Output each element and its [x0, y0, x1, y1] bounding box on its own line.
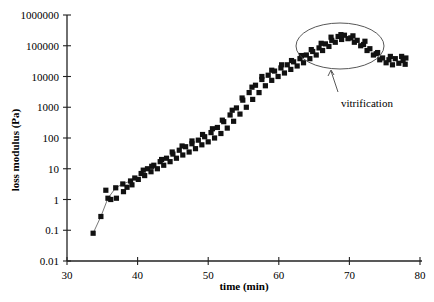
vitrification-label: vitrification	[341, 97, 393, 109]
data-point-marker	[250, 97, 255, 102]
y-tick-label: 0.1	[45, 224, 59, 236]
data-point-marker	[98, 214, 103, 219]
data-point-marker	[121, 189, 126, 194]
data-point-marker	[350, 33, 355, 38]
data-point-marker	[326, 44, 331, 49]
loss-modulus-chart: 0.010.1110100100010000100000100000030405…	[0, 0, 434, 302]
y-tick-label: 1	[54, 194, 60, 206]
data-point-marker	[155, 166, 160, 171]
data-point-marker	[362, 39, 367, 44]
data-point-marker	[170, 149, 175, 154]
x-axis-title: time (min)	[219, 280, 269, 293]
data-point-marker	[266, 73, 271, 78]
y-tick-label: 100000	[26, 40, 60, 52]
data-point-marker	[269, 68, 274, 73]
data-point-marker	[218, 131, 223, 136]
data-point-marker	[206, 139, 211, 144]
x-tick-label: 80	[415, 269, 427, 281]
data-point-marker	[352, 40, 357, 45]
data-point-marker	[249, 85, 254, 90]
data-point-marker	[289, 58, 294, 63]
vitrification-ellipse	[296, 23, 384, 69]
data-point-marker	[179, 143, 184, 148]
data-point-marker	[244, 105, 249, 110]
y-tick-label: 0.01	[40, 255, 59, 267]
data-point-marker	[114, 196, 119, 201]
data-point-marker	[108, 197, 113, 202]
x-tick-label: 50	[203, 269, 215, 281]
data-point-marker	[307, 56, 312, 61]
data-point-marker	[161, 163, 166, 168]
data-point-marker	[225, 125, 230, 130]
data-point-marker	[319, 41, 324, 46]
data-point-marker	[288, 67, 293, 72]
data-point-marker	[239, 95, 244, 100]
x-tick-label: 60	[273, 269, 285, 281]
data-point-marker	[309, 47, 314, 52]
y-tick-label: 1000000	[21, 9, 60, 21]
data-point-marker	[227, 112, 232, 117]
data-point-marker	[390, 62, 395, 67]
data-point-marker	[91, 231, 96, 236]
y-tick-label: 1000	[37, 101, 60, 113]
data-point-marker	[339, 37, 344, 42]
data-point-marker	[212, 135, 217, 140]
data-point-marker	[345, 36, 350, 41]
x-tick-label: 40	[132, 269, 144, 281]
data-point-marker	[338, 32, 343, 37]
annotation-arrow	[331, 71, 338, 92]
data-point-marker	[113, 185, 118, 190]
data-point-marker	[231, 119, 236, 124]
data-point-marker	[275, 74, 280, 79]
data-point-marker	[148, 169, 153, 174]
data-point-marker	[364, 48, 369, 53]
data-point-marker	[358, 43, 363, 48]
data-point-marker	[247, 90, 252, 95]
data-point-marker	[180, 152, 185, 157]
data-point-marker	[375, 50, 380, 55]
y-tick-label: 100	[43, 132, 60, 144]
data-point-marker	[259, 74, 264, 79]
data-point-marker	[314, 52, 319, 57]
data-point-marker	[167, 159, 172, 164]
y-axis-title: loss modulus (Pa)	[9, 108, 22, 191]
y-tick-label: 10	[48, 163, 60, 175]
data-point-marker	[174, 156, 179, 161]
data-point-marker	[215, 125, 220, 130]
x-tick-label: 70	[344, 269, 356, 281]
data-point-marker	[200, 132, 205, 137]
data-point-marker	[295, 63, 300, 68]
data-point-marker	[400, 58, 405, 63]
data-point-marker	[263, 83, 268, 88]
data-point-marker	[320, 48, 325, 53]
data-point-marker	[187, 149, 192, 154]
data-point-marker	[149, 164, 154, 169]
data-point-marker	[193, 146, 198, 151]
data-point-marker	[333, 40, 338, 45]
data-point-marker	[230, 108, 235, 113]
data-point-marker	[220, 118, 225, 123]
x-tick-label: 30	[62, 269, 74, 281]
data-point-marker	[384, 60, 389, 65]
data-point-marker	[141, 168, 146, 173]
data-points	[91, 32, 409, 236]
y-tick-label: 10000	[32, 71, 60, 83]
data-point-marker	[103, 188, 108, 193]
data-point-marker	[136, 177, 141, 182]
data-point-marker	[388, 54, 393, 59]
data-point-marker	[159, 157, 164, 162]
data-point-marker	[142, 173, 147, 178]
data-point-marker	[269, 78, 274, 83]
data-point-marker	[129, 182, 134, 187]
data-point-marker	[328, 35, 333, 40]
data-point-marker	[199, 142, 204, 147]
data-point-marker	[189, 138, 194, 143]
data-point-marker	[279, 62, 284, 67]
arrow-head-icon	[328, 70, 334, 76]
data-point-marker	[196, 138, 201, 143]
data-point-marker	[282, 70, 287, 75]
data-point-marker	[393, 56, 398, 61]
data-point-marker	[301, 60, 306, 65]
data-point-marker	[210, 126, 215, 131]
data-point-marker	[237, 111, 242, 116]
